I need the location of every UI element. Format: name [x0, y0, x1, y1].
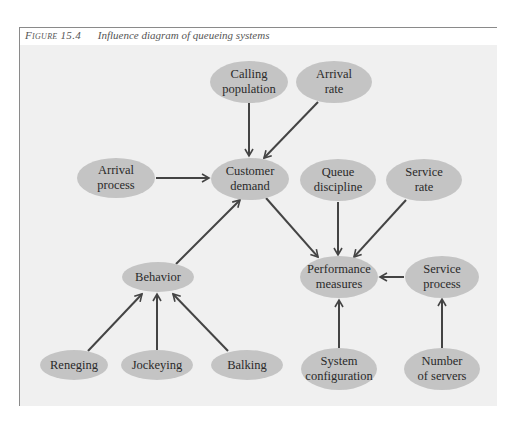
edge-behavior-to-customer-demand	[176, 200, 240, 264]
edge-customer-demand-to-performance-measures	[266, 198, 318, 257]
edges	[88, 102, 442, 351]
node-label: measures	[316, 277, 363, 291]
node-label: configuration	[305, 369, 373, 383]
node-label: Arrival	[316, 67, 353, 81]
node-label: rate	[415, 180, 434, 194]
node-label: process	[97, 178, 135, 192]
node-label: population	[222, 82, 276, 96]
node-label: process	[423, 277, 461, 291]
node-service-rate: Service rate	[386, 159, 462, 201]
node-label: Jockeying	[132, 358, 183, 372]
edge-reneging-to-behavior	[88, 294, 142, 351]
node-performance-measures: Performance measures	[300, 256, 378, 298]
node-label: Customer	[226, 164, 275, 178]
node-label: Arrival	[98, 163, 135, 177]
node-label: Queue	[322, 165, 355, 179]
node-arrival-rate: Arrival rate	[296, 61, 372, 103]
node-calling-population: Calling population	[210, 61, 288, 103]
influence-diagram: Calling population Arrival rate Arrival …	[0, 0, 515, 424]
node-reneging: Reneging	[40, 350, 108, 380]
node-customer-demand: Customer demand	[211, 158, 289, 200]
node-service-process: Service process	[405, 256, 479, 298]
node-system-configuration: System configuration	[301, 348, 377, 390]
edge-balking-to-behavior	[173, 294, 228, 351]
node-label: discipline	[314, 180, 363, 194]
node-number-of-servers: Number of servers	[404, 348, 480, 390]
node-behavior: Behavior	[122, 262, 194, 292]
edge-service-rate-to-performance-measures	[354, 200, 406, 257]
node-label: demand	[230, 179, 270, 193]
node-label: rate	[325, 82, 344, 96]
nodes: Calling population Arrival rate Arrival …	[40, 61, 480, 390]
node-label: Balking	[227, 358, 267, 372]
node-label: of servers	[418, 369, 467, 383]
node-label: Service	[423, 262, 461, 276]
node-balking: Balking	[211, 350, 283, 380]
node-label: Number	[422, 354, 464, 368]
node-label: Service	[405, 165, 443, 179]
node-label: Behavior	[135, 270, 182, 284]
node-label: System	[321, 354, 358, 368]
node-queue-discipline: Queue discipline	[300, 159, 376, 201]
edge-arrival-rate-to-customer-demand	[264, 102, 318, 158]
node-label: Reneging	[50, 358, 99, 372]
node-label: Performance	[307, 262, 371, 276]
node-jockeying: Jockeying	[121, 350, 193, 380]
node-arrival-process: Arrival process	[77, 158, 155, 198]
node-label: Calling	[231, 67, 269, 81]
